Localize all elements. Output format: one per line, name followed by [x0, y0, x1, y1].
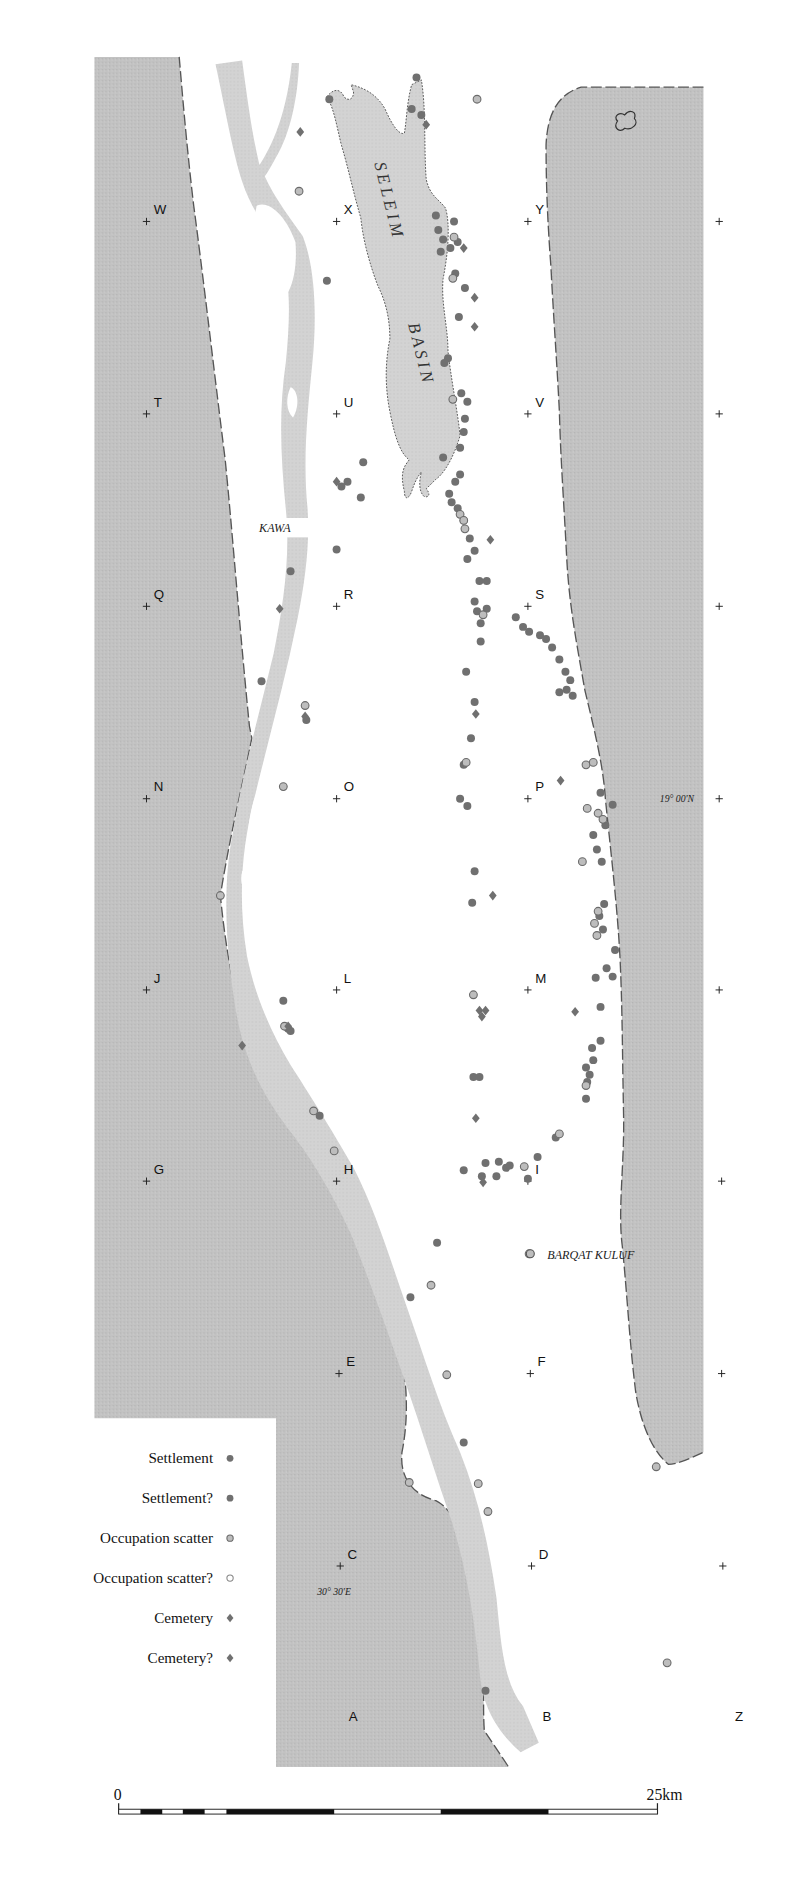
grid-cross-icon	[524, 410, 531, 417]
settlement-marker-icon	[597, 789, 605, 797]
occupation-scatter-marker-icon	[484, 1508, 492, 1516]
settlement-marker-icon	[437, 248, 445, 256]
legend-label-settlement: Settlement	[148, 1450, 214, 1466]
cemetery-uncertain-legend-icon	[227, 1654, 234, 1662]
settlement-marker-icon	[406, 1293, 414, 1301]
grid-label-w: W	[154, 202, 167, 217]
settlement-marker-icon	[542, 635, 550, 643]
occupation-scatter-marker-icon	[599, 815, 607, 823]
settlement-marker-icon	[279, 997, 287, 1005]
settlement-marker-icon	[593, 846, 601, 854]
settlement-marker-icon	[357, 493, 365, 501]
settlement-marker-icon	[323, 277, 331, 285]
cemetery-marker-icon	[472, 1113, 480, 1123]
cemetery-marker-icon	[571, 1007, 579, 1017]
settlement-marker-icon	[287, 567, 295, 575]
grid-label-h: H	[344, 1162, 354, 1177]
grid-label-p: P	[535, 779, 544, 794]
grid-label-m: M	[535, 971, 546, 986]
cemetery-marker-icon	[471, 293, 479, 303]
occupation-scatter-marker-icon	[405, 1479, 413, 1487]
settlement-marker-icon	[586, 1071, 594, 1079]
settlement-marker-icon	[483, 577, 491, 585]
longitude-label: 30° 30'E	[316, 1586, 351, 1597]
occupation-scatter-marker-icon	[279, 783, 287, 791]
grid-label-s: S	[535, 587, 544, 602]
settlement-marker-icon	[258, 677, 266, 685]
occupation-scatter-marker-icon	[582, 761, 590, 769]
legend-label-occupation-scatter: Occupation scatter	[100, 1530, 213, 1546]
grid-label-b: B	[542, 1709, 551, 1724]
grid-label-l: L	[344, 971, 351, 986]
occupation-scatter-marker-icon	[460, 517, 468, 525]
settlement-marker-icon	[569, 692, 577, 700]
settlement-marker-icon	[492, 1172, 500, 1180]
settlement-marker-icon	[471, 698, 479, 706]
settlement-marker-icon	[461, 415, 469, 423]
settlement-marker-icon	[456, 444, 464, 452]
occupation-scatter-marker-icon	[330, 1147, 338, 1155]
grid-label-z: Z	[735, 1709, 743, 1724]
settlement-marker-icon	[461, 284, 469, 292]
settlement-marker-icon	[408, 105, 416, 113]
settlement-marker-icon	[463, 555, 471, 563]
occupation-scatter-marker-icon	[462, 759, 470, 767]
archaeological-site-map: SELEIM BASIN WXYTUVQRSNOPJLMGHIEFCDABZ K…	[0, 0, 787, 1900]
settlement-marker-icon	[609, 973, 617, 981]
barqat-kuluf-site-icon	[526, 1250, 534, 1258]
occupation-scatter-marker-icon	[591, 920, 599, 928]
place-label-kawa: KAWA	[258, 521, 291, 535]
grid-cross-icon	[716, 218, 723, 225]
occupation-scatter-marker-icon	[594, 907, 602, 915]
settlement-marker-icon	[495, 1158, 503, 1166]
settlement-marker-icon	[467, 734, 475, 742]
settlement-marker-icon	[592, 974, 600, 982]
occupation-scatter-marker-icon	[295, 187, 303, 195]
cemetery-marker-icon	[489, 891, 497, 901]
legend-label-cemetery: Cemetery	[154, 1610, 213, 1626]
settlement-marker-icon	[600, 900, 608, 908]
settlement-marker-icon	[463, 802, 471, 810]
settlement-marker-icon	[555, 688, 563, 696]
settlement-marker-icon	[333, 545, 341, 553]
grid-cross-icon	[716, 795, 723, 802]
cemetery-marker-icon	[471, 322, 479, 332]
settlement-marker-icon	[471, 867, 479, 875]
occupation-scatter-marker-icon	[663, 1659, 671, 1667]
settlement-marker-icon	[477, 637, 485, 645]
grid-cross-icon	[718, 1178, 725, 1185]
settlement-marker-icon	[460, 1166, 468, 1174]
settlement-marker-icon	[359, 458, 367, 466]
occupation-scatter-marker-icon	[589, 759, 597, 767]
grid-label-j: J	[154, 971, 161, 986]
settlement-marker-icon	[451, 478, 459, 486]
grid-cross-icon	[716, 603, 723, 610]
grid-label-i: I	[535, 1162, 539, 1177]
grid-label-n: N	[154, 779, 164, 794]
grid-cross-icon	[524, 986, 531, 993]
settlement-marker-icon	[566, 676, 574, 684]
occupation-scatter-legend-icon	[227, 1535, 233, 1541]
grid-cross-icon	[716, 410, 723, 417]
settlement-marker-icon	[455, 313, 463, 321]
cemetery-marker-icon	[472, 709, 480, 719]
occupation-scatter-uncertain-legend-icon	[227, 1575, 233, 1581]
settlement-marker-icon	[433, 1239, 441, 1247]
settlement-marker-icon	[448, 498, 456, 506]
grid-cross-icon	[524, 603, 531, 610]
latitude-label: 19° 00'N	[660, 793, 695, 804]
legend-label-settlement-uncertain: Settlement?	[142, 1490, 214, 1506]
settlement-marker-icon	[432, 211, 440, 219]
settlement-marker-icon	[439, 453, 447, 461]
settlement-marker-icon	[512, 613, 520, 621]
settlement-marker-icon	[524, 1175, 532, 1183]
occupation-scatter-marker-icon	[583, 805, 591, 813]
settlement-marker-icon	[440, 359, 448, 367]
occupation-scatter-marker-icon	[520, 1163, 528, 1171]
grid-cross-icon	[333, 795, 340, 802]
settlement-marker-icon	[482, 1687, 490, 1695]
grid-label-y: Y	[535, 202, 544, 217]
settlement-marker-icon	[603, 964, 611, 972]
occupation-scatter-marker-icon	[461, 525, 469, 533]
settlement-marker-icon	[525, 628, 533, 636]
